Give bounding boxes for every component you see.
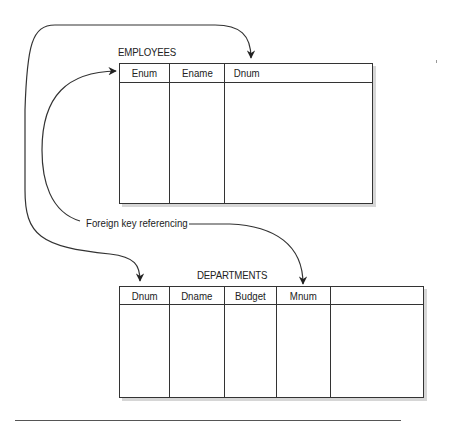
departments-col-blank (331, 287, 423, 305)
employees-table-title: EMPLOYEES (118, 46, 176, 58)
departments-col-budget: Budget (225, 287, 276, 305)
scan-speck (436, 60, 437, 63)
employees-header-divider (120, 82, 372, 83)
employees-col-enum: Enum (120, 64, 169, 82)
employees-column-divider (224, 64, 225, 203)
departments-table: Dnum Dname Budget Mnum (119, 286, 424, 398)
employees-col-dnum: Dnum (232, 64, 272, 82)
foreign-key-label: Foreign key referencing (86, 217, 188, 229)
arrow-label-to-emp-enum (42, 71, 116, 221)
employees-table: Enum Ename Dnum (119, 63, 373, 204)
bottom-rule (15, 420, 401, 421)
departments-col-dnum: Dnum (120, 287, 169, 305)
employees-col-ename: Ename (170, 64, 224, 82)
departments-col-mnum: Mnum (277, 287, 330, 305)
departments-table-title: DEPARTMENTS (197, 269, 267, 281)
employees-column-divider (169, 64, 170, 203)
departments-col-dname: Dname (170, 287, 224, 305)
